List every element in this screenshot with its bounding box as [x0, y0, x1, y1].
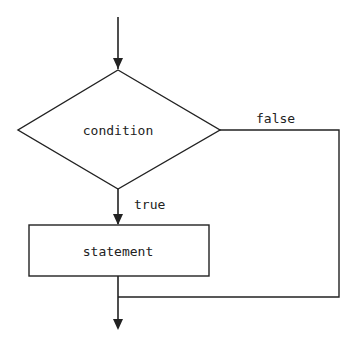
false-label: false	[256, 111, 295, 126]
flowchart: condition false true statement	[0, 0, 353, 346]
entry-arrowhead-icon	[113, 58, 123, 69]
statement-label: statement	[83, 244, 153, 259]
true-label: true	[134, 197, 165, 212]
condition-label: condition	[83, 123, 153, 138]
true-arrowhead-icon	[113, 214, 123, 225]
exit-arrowhead-icon	[113, 319, 123, 330]
